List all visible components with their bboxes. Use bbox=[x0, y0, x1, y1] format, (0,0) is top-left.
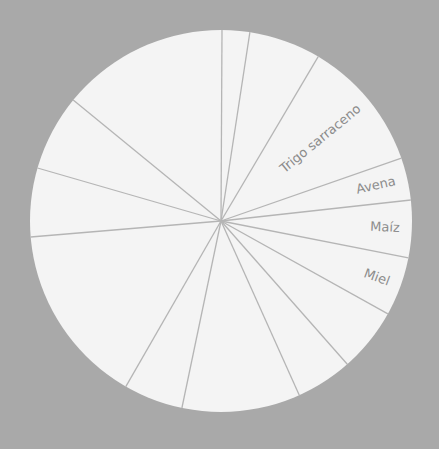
slice-label: Maíz bbox=[370, 219, 400, 235]
pie-chart-canvas: Trigo sarracenoAvenaMaízMiel bbox=[0, 0, 439, 449]
pie-chart: Trigo sarracenoAvenaMaízMiel bbox=[0, 0, 439, 449]
